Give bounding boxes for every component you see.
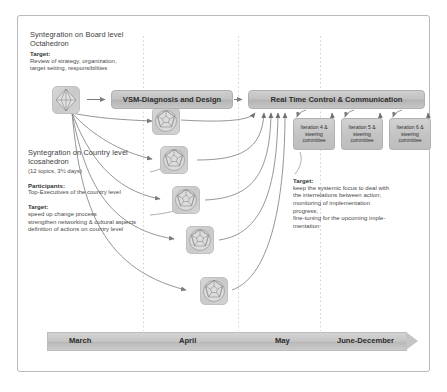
right-target-line-3: monitoring of implementation (293, 200, 425, 208)
steering-committee-box-1[interactable]: Iteration 4 & steering committee (293, 118, 335, 150)
board-level-target-line-1: Review of strategy, organization, (30, 58, 150, 66)
country-level-target-line-3: definition of actions on country level (28, 226, 153, 234)
sc2-line1: Iteration 5 & (349, 124, 376, 131)
right-target-line-6: mentation (293, 223, 425, 231)
steering-committee-box-3[interactable]: Iteration 6 & steering committee (389, 118, 431, 150)
icosahedron-icon (161, 147, 187, 173)
board-level-text-block: Syntegration on Board level Octahedron T… (30, 30, 150, 73)
icosahedron-icon (173, 187, 199, 213)
country-level-participants-label: Participants: (28, 182, 153, 190)
icosahedron-node-4[interactable] (186, 226, 214, 254)
timeline-label-april: April (179, 336, 196, 345)
right-target-label: Target: (293, 177, 425, 185)
octahedron-node[interactable] (52, 86, 80, 114)
timeline-label-may: May (275, 336, 290, 345)
country-level-topics: (12 topics, 3½ days) (28, 168, 153, 176)
icosahedron-node-5[interactable] (200, 277, 228, 305)
country-level-participants-text: Top-Executives of the country level (28, 189, 153, 197)
country-level-subtitle: Icosahedron (28, 157, 153, 166)
right-target-line-1: keep the systemic focus to deal with (293, 185, 425, 193)
right-target-line-4: progress; (293, 208, 425, 216)
sc3-line1: Iteration 6 & (397, 124, 424, 131)
country-level-text-block: Syntegration on Country level Icosahedro… (28, 148, 153, 234)
icosahedron-icon (201, 278, 227, 304)
right-target-text-block: Target: keep the systemic focus to deal … (293, 177, 425, 231)
icosahedron-node-3[interactable] (172, 186, 200, 214)
board-level-target-label: Target: (30, 50, 150, 58)
sc1-line3: committee (301, 137, 328, 144)
right-target-line-2: the interrelations between action; (293, 192, 425, 200)
board-level-title: Syntegration on Board level (30, 30, 150, 39)
country-level-target-label: Target: (28, 203, 153, 211)
board-level-subtitle: Octahedron (30, 39, 150, 48)
sc1-line1: Iteration 4 & (301, 124, 328, 131)
country-level-target-line-1: speed up change process (28, 211, 153, 219)
process-bar-vsm-label: VSM-Diagnosis and Design (123, 95, 221, 104)
sc3-line3: committee (397, 137, 424, 144)
icosahedron-icon (187, 227, 213, 253)
sc1-line2: steering (301, 131, 328, 138)
icosahedron-node-2[interactable] (160, 146, 188, 174)
right-target-line-5: fine-tuning for the upcoming imple- (293, 215, 425, 223)
country-level-target-line-2: strengthen networking & cultural aspects (28, 219, 153, 227)
octahedron-icon (53, 87, 79, 113)
board-level-target-line-2: target setting, responsibilities (30, 65, 150, 73)
timeline-arrow-head (406, 332, 418, 350)
sc2-line3: committee (349, 137, 376, 144)
timeline: March April May June-December (47, 332, 418, 351)
icosahedron-node-1[interactable] (152, 107, 180, 135)
process-bar-rtc[interactable]: Real Time Control & Communication (248, 90, 425, 109)
steering-committee-box-2[interactable]: Iteration 5 & steering committee (341, 118, 383, 150)
country-level-title: Syntegration on Country level (28, 148, 153, 157)
process-bar-vsm[interactable]: VSM-Diagnosis and Design (111, 90, 233, 109)
timeline-label-march: March (69, 336, 91, 345)
icosahedron-icon (153, 108, 179, 134)
process-bar-rtc-label: Real Time Control & Communication (271, 95, 403, 104)
sc2-line2: steering (349, 131, 376, 138)
timeline-label-june-december: June-December (337, 336, 394, 345)
sc3-line2: steering (397, 131, 424, 138)
leader-line-right-target (295, 152, 301, 174)
